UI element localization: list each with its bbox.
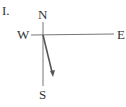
compass-diagram	[0, 0, 126, 107]
vector-arrow-shaft	[43, 35, 52, 72]
vector-arrowhead-icon	[50, 70, 55, 77]
